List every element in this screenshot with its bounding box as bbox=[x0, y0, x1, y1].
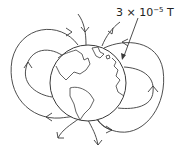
field-line-top-2 bbox=[102, 22, 120, 46]
annotation-pointer bbox=[124, 18, 138, 56]
diagram-canvas bbox=[0, 0, 176, 152]
field-strength-label: 3 × 10−5 T bbox=[116, 4, 174, 19]
arrow-icon bbox=[24, 62, 32, 68]
magnetic-field-diagram: 3 × 10−5 T bbox=[0, 0, 176, 152]
arrow-icon bbox=[57, 132, 64, 138]
field-strength-unit: T bbox=[164, 6, 174, 19]
field-line-bottom-2 bbox=[88, 120, 98, 145]
field-line-top-1 bbox=[78, 14, 86, 45]
field-strength-exponent: −5 bbox=[153, 6, 163, 14]
annotation-arrowhead-icon bbox=[121, 53, 126, 60]
field-strength-mantissa: 3 × 10 bbox=[116, 6, 153, 19]
field-line-bottom-1 bbox=[58, 118, 80, 138]
